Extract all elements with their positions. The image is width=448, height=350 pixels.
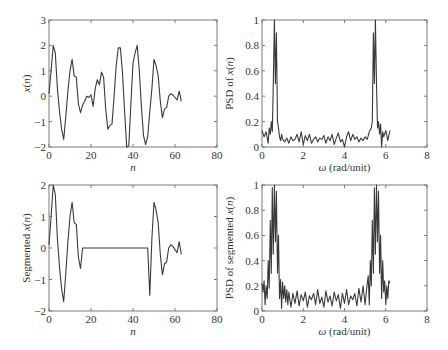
y-tick-label: 1 [41,65,47,77]
y-tick-label: 0.6 [245,65,259,77]
y-tick-label: 0 [41,242,47,254]
x-axis-label: ω (rad/unit) [318,325,370,338]
x-tick-label: 40 [128,313,140,325]
x-tick-label: 0 [259,313,265,325]
x-tick-label: 20 [86,313,98,325]
x-axis-label: ω (rad/unit) [318,161,370,174]
x-tick-label: 6 [383,149,389,161]
x-tick-label: 80 [212,149,224,161]
x-tick-label: 4 [342,149,348,161]
x-tick-label: 2 [301,149,307,161]
y-tick-label: 1 [254,14,260,26]
y-tick-label: 0 [254,141,260,153]
y-tick-label: 2 [41,179,47,191]
x-axis-label: n [130,161,136,173]
axes-frame [262,20,427,147]
y-tick-label: 0 [254,305,260,317]
subplot-psd: 0246800.20.40.60.81ω (rad/unit)PSD of x(… [223,14,430,174]
x-tick-label: 0 [46,313,52,325]
y-tick-label: 0.2 [245,280,259,292]
x-tick-label: 6 [383,313,389,325]
figure: 020406080−2−10123nx(n) 0246800.20.40.60.… [0,0,448,350]
y-tick-label: 1 [254,179,260,191]
data-series-line [262,20,390,147]
x-tick-label: 4 [342,313,348,325]
x-tick-label: 40 [128,149,140,161]
y-tick-label: 0.2 [245,116,259,128]
y-axis-label: x(n) [20,74,33,93]
subplot-segmented-signal: 020406080−2−1012nSegmented x(n) [20,179,223,337]
x-tick-label: 0 [259,149,265,161]
y-tick-label: 0.8 [245,39,259,51]
x-tick-label: 60 [170,313,182,325]
y-tick-label: −2 [34,141,46,153]
x-axis-label: n [130,325,136,337]
y-tick-label: 3 [41,14,47,26]
x-tick-label: 20 [86,149,98,161]
y-axis-label: PSD of segmented x(n) [223,196,236,299]
y-tick-label: −1 [34,274,46,286]
x-tick-label: 0 [46,149,52,161]
y-axis-label: PSD of x(n) [223,57,236,110]
data-series-line [49,185,181,302]
subplot-signal: 020406080−2−10123nx(n) [20,14,223,173]
x-tick-label: 8 [424,313,430,325]
x-tick-label: 60 [170,149,182,161]
y-axis-label: Segmented x(n) [20,213,33,283]
y-tick-label: −1 [34,116,46,128]
data-series-line [49,45,181,147]
x-tick-label: 2 [301,313,307,325]
subplot-segmented-psd: 0246800.20.40.60.81ω (rad/unit)PSD of se… [223,179,430,338]
y-tick-label: 2 [41,39,47,51]
y-tick-label: 0 [41,90,47,102]
x-tick-label: 8 [424,149,430,161]
y-tick-label: −2 [34,305,46,317]
data-series-line [262,185,390,309]
axes-frame [49,20,217,147]
y-tick-label: 0.4 [245,255,259,267]
x-tick-label: 80 [212,313,224,325]
y-tick-label: 0.6 [245,229,259,241]
y-tick-label: 1 [41,211,47,223]
y-tick-label: 0.8 [245,204,259,216]
y-tick-label: 0.4 [245,90,259,102]
